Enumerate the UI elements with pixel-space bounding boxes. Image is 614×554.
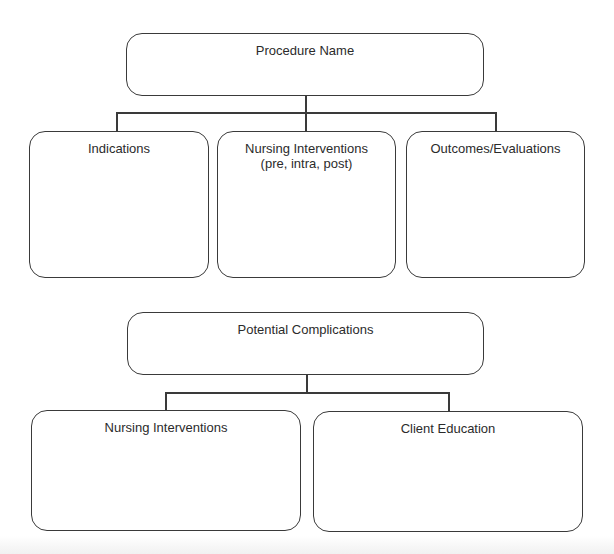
potential-complications-label: Potential Complications [128, 313, 483, 337]
connector-bottom-vertical [306, 374, 308, 393]
nursing-interventions-pre-intra-post-box: Nursing Interventions (pre, intra, post) [217, 131, 396, 278]
client-education-label: Client Education [314, 412, 582, 436]
client-education-box: Client Education [313, 411, 583, 532]
connector-top-left-drop [116, 112, 118, 132]
nursing-interventions-box: Nursing Interventions [31, 410, 301, 531]
connector-bottom-right-drop [448, 392, 450, 411]
potential-complications-box: Potential Complications [127, 312, 484, 375]
outcomes-evaluations-box: Outcomes/Evaluations [406, 131, 585, 278]
indications-label: Indications [30, 132, 208, 156]
nursing-interventions-label: Nursing Interventions [32, 411, 300, 435]
connector-top-right-drop [495, 112, 497, 132]
connector-top-mid-drop [305, 112, 307, 132]
outcomes-evaluations-label: Outcomes/Evaluations [407, 132, 584, 156]
connector-bottom-horizontal [165, 392, 449, 394]
procedure-name-box: Procedure Name [126, 33, 484, 96]
page-bottom-shadow [0, 536, 614, 554]
nursing-interventions-pre-intra-post-label: Nursing Interventions (pre, intra, post) [218, 132, 395, 171]
procedure-name-label: Procedure Name [127, 34, 483, 58]
connector-top-vertical [305, 95, 307, 113]
connector-bottom-left-drop [165, 392, 167, 411]
indications-box: Indications [29, 131, 209, 278]
